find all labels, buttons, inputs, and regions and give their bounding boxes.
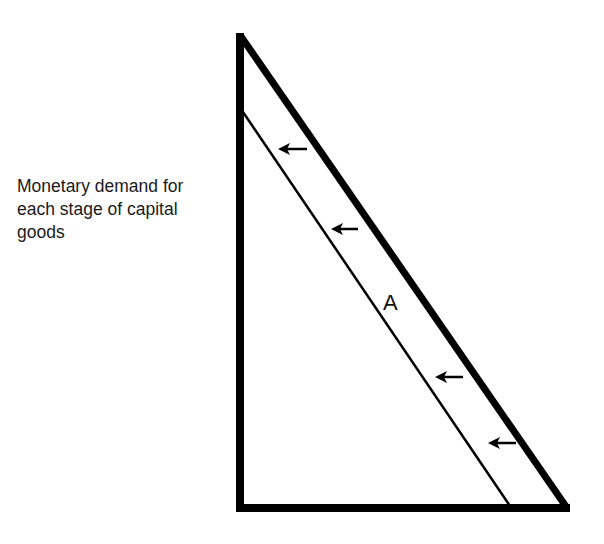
region-label-a: A: [383, 290, 398, 315]
left-arrow-icon: [435, 371, 463, 383]
diagram-canvas: A: [0, 0, 604, 544]
left-arrow-icon: [331, 223, 358, 235]
inner-demand-line: [243, 112, 510, 506]
left-arrow-icon: [488, 437, 516, 449]
outer-hypotenuse: [240, 35, 567, 508]
hayekian-triangle-diagram: A Monetary demand for each stage of capi…: [0, 0, 604, 544]
left-arrow-icon: [278, 143, 307, 155]
y-axis-label: Monetary demand for each stage of capita…: [17, 175, 227, 244]
